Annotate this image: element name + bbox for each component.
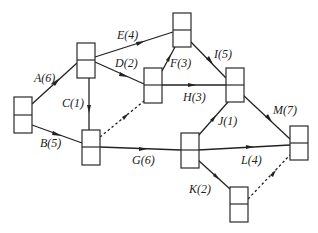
edge-h xyxy=(162,83,226,87)
node-6 xyxy=(226,68,244,102)
network-diagram: A(6) B(5) C(1) D(2) E(4) F(3) H(3) I(5) … xyxy=(0,0,318,233)
label-f: F(3) xyxy=(169,56,191,70)
label-e: E(4) xyxy=(116,28,138,42)
arrowhead-icon xyxy=(122,113,129,120)
edge-c xyxy=(87,78,91,130)
label-l: L(4) xyxy=(240,153,262,167)
label-i: I(5) xyxy=(213,47,232,61)
label-j: J(1) xyxy=(218,114,237,128)
arrowhead-icon xyxy=(265,114,272,122)
edge-m xyxy=(243,95,290,139)
node-8 xyxy=(290,126,308,160)
edge-l xyxy=(198,145,290,150)
arrowhead-icon xyxy=(246,145,254,149)
node-9 xyxy=(230,187,248,222)
node-4 xyxy=(144,68,162,103)
arrowhead-icon xyxy=(206,56,213,64)
node-3 xyxy=(82,130,100,165)
node-5 xyxy=(173,13,191,47)
arrowhead-icon xyxy=(188,83,196,87)
edge-dummy-3-4 xyxy=(100,101,144,137)
label-b: B(5) xyxy=(40,136,61,150)
arrowhead-icon xyxy=(119,72,128,77)
edge-g xyxy=(100,147,181,151)
node-7 xyxy=(181,133,199,168)
arrowhead-icon xyxy=(87,105,91,113)
label-a: A(6) xyxy=(33,71,55,85)
node-2 xyxy=(77,43,95,78)
label-d: D(2) xyxy=(114,56,138,70)
label-k: K(2) xyxy=(188,182,211,196)
label-m: M(7) xyxy=(272,103,297,117)
label-h: H(3) xyxy=(182,90,206,104)
label-g: G(6) xyxy=(132,153,155,167)
node-1 xyxy=(14,97,32,133)
arrowhead-icon xyxy=(139,147,147,151)
label-c: C(1) xyxy=(62,96,84,110)
